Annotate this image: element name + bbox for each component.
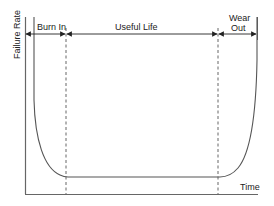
burn-in-label: Burn In bbox=[37, 22, 66, 32]
wear-out-label-line1: Wear bbox=[229, 13, 250, 23]
useful-life-label: Useful Life bbox=[115, 22, 158, 32]
wear-out-label-line2: Out bbox=[231, 23, 246, 33]
bathtub-chart: Burn In Useful Life Wear Out Time Failur… bbox=[0, 0, 274, 206]
x-axis-label: Time bbox=[240, 182, 260, 192]
y-axis-label: Failure Rate bbox=[12, 10, 22, 59]
failure-rate-curve bbox=[34, 17, 257, 177]
